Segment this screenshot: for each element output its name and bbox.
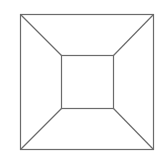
connector-top-left <box>21 15 62 56</box>
inner-square <box>62 56 114 109</box>
connector-top-right <box>114 15 154 56</box>
frustum-diagram <box>0 0 168 155</box>
connector-bottom-left <box>21 109 62 150</box>
connector-bottom-right <box>114 109 154 150</box>
